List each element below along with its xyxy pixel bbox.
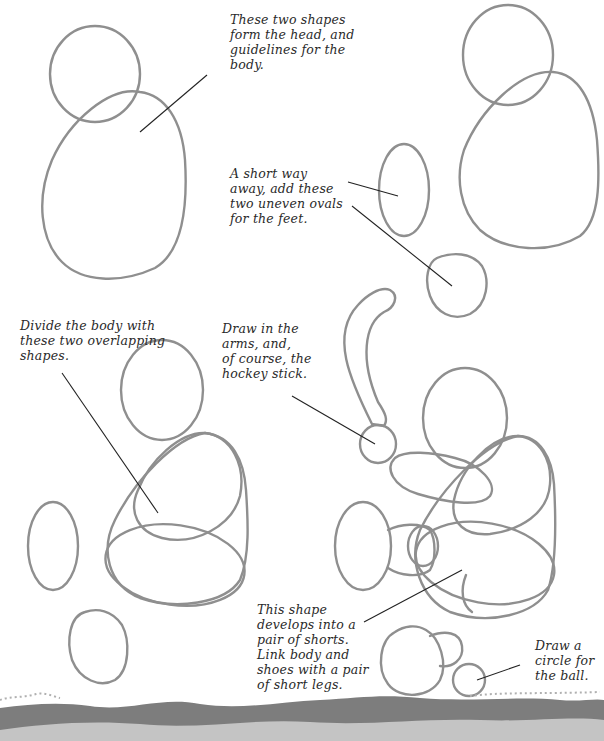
drawing-tutorial-page: These two shapes form the head, and guid… (0, 0, 604, 741)
note-ball: Draw a circle for the ball. (535, 638, 594, 683)
hand-circle (360, 425, 396, 463)
leader-line (364, 570, 462, 622)
note-divide-body: Divide the body with these two overlappi… (20, 318, 165, 363)
leader-line (352, 206, 452, 286)
foot-oval-right (69, 610, 127, 683)
foot-oval-left (379, 144, 429, 236)
lower-body-shape (100, 516, 250, 615)
note-arms-and-stick: Draw in the arms, and, of course, the ho… (222, 321, 312, 381)
leader-line (62, 373, 158, 513)
upper-body-shape (453, 436, 550, 534)
foot-oval-left (335, 502, 391, 590)
leader-line (140, 75, 207, 132)
note-shorts-and-legs: This shape develops into a pair of short… (257, 602, 369, 692)
hockey-stick (344, 289, 395, 426)
shorts-notch (463, 575, 472, 612)
decorative-brush-band (0, 690, 604, 741)
foot-oval-right (427, 254, 486, 317)
step-1-drawing (42, 26, 207, 279)
foot-oval-right (381, 626, 443, 694)
note-head-and-body: These two shapes form the head, and guid… (230, 12, 354, 72)
step-3-drawing (28, 340, 250, 683)
head-circle (50, 26, 140, 122)
step-2-drawing (348, 5, 598, 317)
leader-line (348, 182, 398, 196)
foot-oval-left (28, 502, 78, 590)
body-oval (42, 91, 185, 278)
note-feet-ovals: A short way away, add these two uneven o… (230, 166, 343, 226)
